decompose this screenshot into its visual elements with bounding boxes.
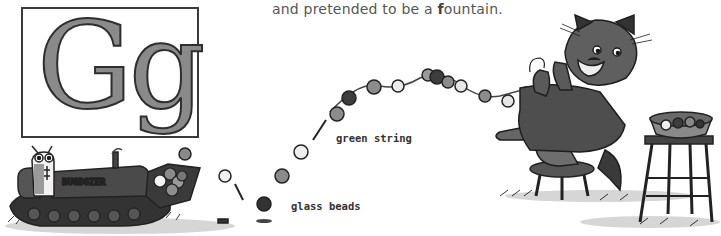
cat-illustration xyxy=(496,15,652,190)
letter-glyph: Gg xyxy=(37,1,202,131)
label-green-string: green string xyxy=(336,132,412,144)
bead-string xyxy=(330,69,531,121)
narration-prefix: and pretended to be a xyxy=(272,1,437,17)
label-glass-beads: glass beads xyxy=(291,200,361,212)
bugdozer-label: BUGDOZER xyxy=(62,177,106,187)
narration-text: and pretended to be a fountain. xyxy=(272,1,503,17)
tall-stool-illustration xyxy=(640,112,713,222)
uppercase-letter: G xyxy=(37,0,129,135)
letter-box: Gg xyxy=(21,7,199,138)
bulldozer-illustration: BUGDOZER xyxy=(10,146,200,226)
book-page: BUGDOZER xyxy=(0,0,721,236)
lowercase-letter: g xyxy=(129,0,202,135)
narration-suffix: ountain. xyxy=(444,1,503,17)
